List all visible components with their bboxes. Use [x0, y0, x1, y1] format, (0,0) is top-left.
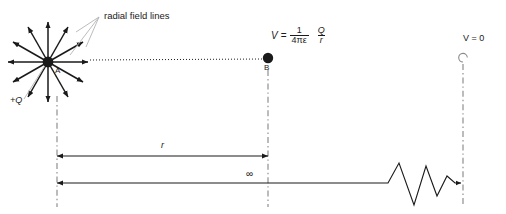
equation-lhs: V: [271, 30, 278, 41]
equation-fraction-one: 1 4πε: [290, 26, 309, 46]
charge-label: +Q: [10, 95, 22, 105]
equation-fraction-two: Q r: [316, 26, 327, 46]
charge-point: [43, 57, 54, 68]
radial-field-lines-label: radial field lines: [104, 10, 169, 21]
point-b-label: B: [264, 63, 269, 72]
radius-dotted-line: [90, 59, 264, 60]
infinity-open-circle: [459, 53, 468, 62]
fraction-two-denominator: r: [318, 35, 325, 45]
distance-arrow-infinity: [57, 163, 461, 205]
reference-lines: [57, 64, 463, 207]
v-zero-label: V = 0: [463, 33, 484, 43]
distance-r-label: r: [161, 140, 164, 150]
diagram-canvas: [0, 0, 506, 214]
physics-diagram: radial field lines A B +Q r ∞ V = 0 V = …: [0, 0, 506, 214]
potential-equation: V = 1 4πε Q r: [271, 26, 327, 46]
point-b: [263, 53, 273, 63]
infinity-arrow-path: [57, 163, 461, 205]
point-a-label: A: [55, 66, 60, 75]
fraction-two-numerator: Q: [316, 26, 327, 35]
leader-radial-2: [70, 17, 99, 55]
infinity-label: ∞: [246, 168, 253, 179]
equation-equals: =: [281, 30, 287, 41]
fraction-one-denominator: 4πε: [290, 35, 309, 45]
fraction-one-numerator: 1: [295, 26, 304, 35]
